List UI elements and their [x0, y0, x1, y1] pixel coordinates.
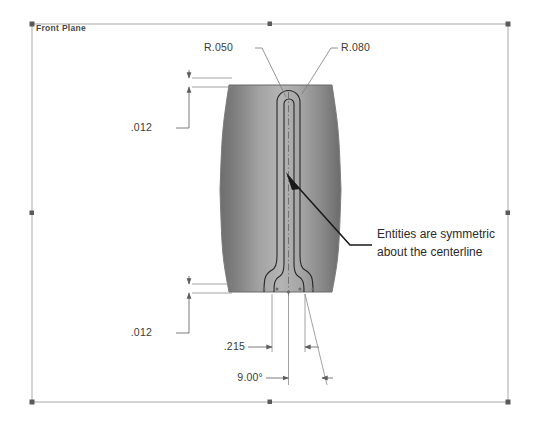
- bottom-dim-leader: [176, 301, 189, 333]
- slot-point-4[interactable]: [312, 288, 315, 291]
- slot-point-2[interactable]: [276, 288, 279, 291]
- symmetry-note-line1[interactable]: Entities are symmetric: [377, 227, 495, 241]
- r050-label[interactable]: R.050: [204, 41, 233, 53]
- symmetry-note-line2[interactable]: about the centerline: [377, 245, 483, 259]
- slot-point-1[interactable]: [263, 288, 266, 291]
- handle-bottom-mid[interactable]: [268, 400, 273, 405]
- plane-label: Front Plane: [36, 23, 86, 33]
- slot-point-3[interactable]: [299, 288, 302, 291]
- handle-top-left[interactable]: [30, 22, 35, 27]
- handle-right-mid[interactable]: [506, 211, 511, 216]
- top-offset-label[interactable]: .012: [131, 121, 152, 133]
- ang-ext-slant: [305, 294, 327, 385]
- r080-label[interactable]: R.080: [341, 41, 370, 53]
- dimension-top-offset[interactable]: .012: [131, 70, 232, 133]
- dimension-draft-angle[interactable]: 9.00°: [237, 294, 333, 385]
- cad-sketch-viewport[interactable]: Front Plane: [0, 0, 540, 426]
- handle-left-mid[interactable]: [30, 211, 35, 216]
- dimension-bottom-offset[interactable]: .012: [131, 276, 232, 338]
- draft-angle-label[interactable]: 9.00°: [237, 371, 263, 383]
- handle-bottom-right[interactable]: [506, 400, 511, 405]
- slot-point-center[interactable]: [287, 290, 290, 293]
- top-dim-leader: [176, 95, 189, 128]
- slot-width-label[interactable]: .215: [224, 340, 245, 352]
- handle-top-right[interactable]: [506, 22, 511, 27]
- cad-drawing-canvas[interactable]: Front Plane: [0, 0, 540, 426]
- dimension-slot-width[interactable]: .215: [224, 294, 319, 352]
- part-body[interactable]: [220, 85, 341, 292]
- handle-top-mid[interactable]: [268, 22, 273, 27]
- bottom-offset-label[interactable]: .012: [131, 326, 152, 338]
- handle-bottom-left[interactable]: [30, 400, 35, 405]
- part-shaded-face: [220, 85, 341, 292]
